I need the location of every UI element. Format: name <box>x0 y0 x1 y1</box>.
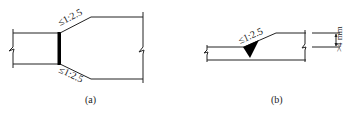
break-line-b-left <box>204 45 208 62</box>
break-line-a-right <box>139 12 144 83</box>
slope-label-a-bottom: ≤1:2.5 <box>57 64 85 85</box>
slope-label-a-top: ≤1:2.5 <box>56 6 84 28</box>
slope-label-b: ≤1:2.5 <box>236 25 264 46</box>
weld-transition-diagram: ≤1:2.5 ≤1:2.5 (a) ≤1:2.5 >4 mm (b) <box>0 0 359 115</box>
break-line-b-right <box>302 30 306 62</box>
figure-b <box>204 30 340 62</box>
break-line-a-left <box>9 29 14 68</box>
weld-a <box>58 32 62 65</box>
dimension-label-b: >4 mm <box>334 26 344 52</box>
caption-b: (b) <box>271 94 283 106</box>
caption-a: (a) <box>85 94 96 106</box>
